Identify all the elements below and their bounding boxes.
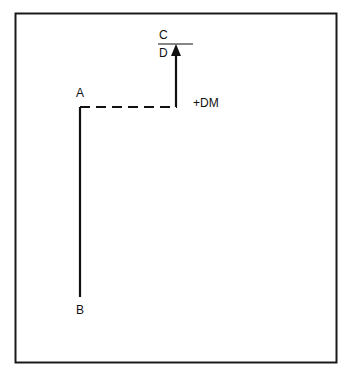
label-b: B bbox=[76, 303, 84, 317]
label-displacement: +DM bbox=[193, 96, 219, 110]
arrowhead-icon bbox=[171, 44, 181, 56]
label-a: A bbox=[76, 86, 84, 100]
diagram-canvas: A B C D +DM bbox=[0, 0, 349, 373]
label-c: C bbox=[159, 28, 168, 42]
label-d: D bbox=[159, 46, 168, 60]
